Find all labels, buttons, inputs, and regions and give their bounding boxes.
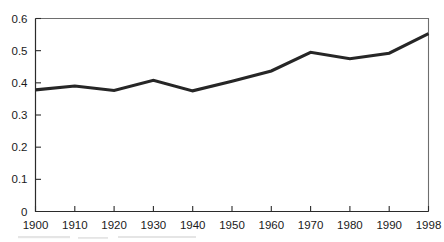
x-tick-label: 1940 <box>180 219 206 231</box>
y-tick-label: 0.2 <box>12 141 28 153</box>
chart-canvas: 00.10.20.30.40.50.6 19001910192019301940… <box>0 0 444 242</box>
y-tick-label: 0.1 <box>12 173 28 185</box>
y-tick-label: 0.4 <box>12 77 29 89</box>
y-tick-label: 0 <box>21 206 27 218</box>
y-tick-label: 0.6 <box>12 13 28 25</box>
x-tick-label: 1920 <box>101 219 127 231</box>
x-tick-label: 1960 <box>259 219 285 231</box>
x-tick-label: 1950 <box>219 219 245 231</box>
chart-background <box>0 0 444 242</box>
y-tick-label: 0.5 <box>12 45 28 57</box>
x-tick-label: 1970 <box>298 219 324 231</box>
x-axis-tick-labels: 1900191019201930194019501960197019801990… <box>23 219 442 231</box>
y-tick-label: 0.3 <box>12 109 28 121</box>
line-chart: 00.10.20.30.40.50.6 19001910192019301940… <box>0 0 444 242</box>
x-tick-label: 1910 <box>62 219 88 231</box>
x-tick-label: 1900 <box>23 219 49 231</box>
x-tick-label: 1990 <box>376 219 402 231</box>
x-tick-label: 1930 <box>141 219 167 231</box>
x-tick-label: 1998 <box>416 219 442 231</box>
x-tick-label: 1980 <box>337 219 363 231</box>
